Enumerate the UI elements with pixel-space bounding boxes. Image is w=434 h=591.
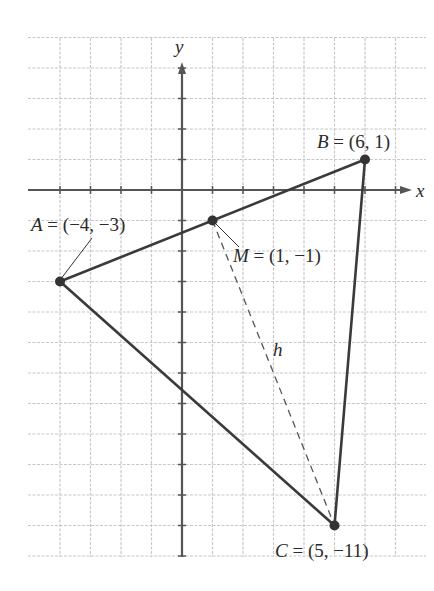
- point-m: [208, 216, 218, 226]
- coordinate-diagram: xy A = (−4, −3)B = (6, 1)C = (5, −11)M =…: [0, 0, 434, 591]
- x-axis-arrow-icon: [400, 186, 412, 194]
- y-axis-label: y: [173, 36, 184, 57]
- label-point-m: M = (1, −1): [232, 245, 321, 267]
- label-h: h: [273, 339, 283, 360]
- point-b: [360, 155, 370, 165]
- point-a: [55, 277, 65, 287]
- label-point-b: B = (6, 1): [317, 131, 390, 153]
- x-axis-label: x: [415, 180, 425, 201]
- grid-lines: [28, 38, 426, 558]
- label-point-a: A = (−4, −3): [29, 214, 125, 236]
- point-c: [330, 521, 340, 531]
- label-point-c: C = (5, −11): [275, 540, 369, 562]
